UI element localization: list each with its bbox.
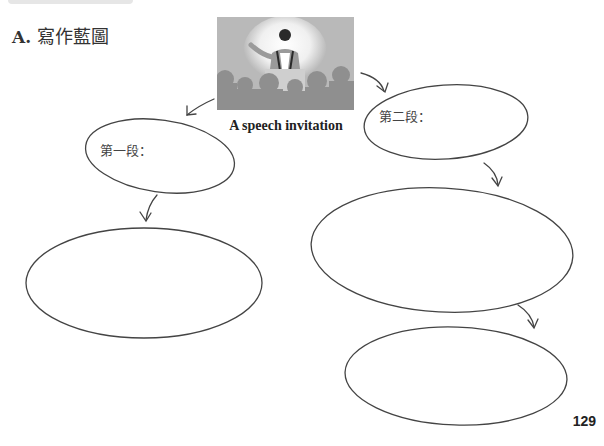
paragraph-1-label: 第一段： [100, 140, 152, 159]
page-number: 129 [573, 413, 596, 429]
paragraph-1-detail-oval[interactable] [28, 230, 260, 336]
paragraph-2-detail-oval[interactable] [313, 190, 571, 310]
paragraph-2-label: 第二段： [379, 106, 431, 125]
paragraph-2-detail-2-oval[interactable] [347, 329, 566, 423]
paragraph-1-oval[interactable]: 第一段： [88, 124, 234, 190]
paragraph-2-oval[interactable]: 第二段： [366, 88, 526, 158]
